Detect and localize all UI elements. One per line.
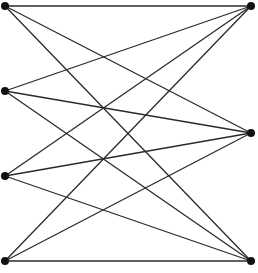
edge-L2-R2 [5, 91, 251, 133]
edge-L3-R2 [5, 133, 251, 176]
node-L1 [1, 2, 9, 10]
edge-L1-R2 [5, 6, 251, 133]
bipartite-graph [0, 0, 258, 273]
edge-L2-R3 [5, 91, 251, 261]
edge-L3-R1 [5, 6, 251, 176]
node-L2 [1, 87, 9, 95]
edge-L2-R1 [5, 6, 251, 91]
edge-layer [5, 6, 251, 261]
node-L4 [1, 257, 9, 265]
node-L3 [1, 172, 9, 180]
edge-L3-R3 [5, 176, 251, 261]
node-R1 [247, 2, 255, 10]
edge-L4-R2 [5, 133, 251, 261]
node-R3 [247, 257, 255, 265]
node-R2 [247, 129, 255, 137]
